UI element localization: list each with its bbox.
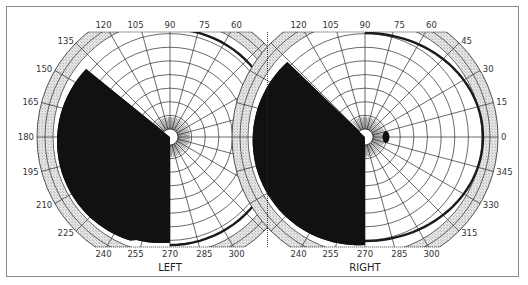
angle-label-285: 285 [391, 249, 407, 259]
angle-label-240: 240 [290, 249, 306, 259]
angle-label-330: 330 [483, 200, 499, 210]
angle-label-345: 345 [496, 167, 512, 177]
angle-label-15: 15 [496, 97, 507, 107]
angle-label-150: 150 [36, 64, 52, 74]
angle-label-0: 0 [501, 132, 506, 142]
visual-field-chart: 1201059075601351501651801952102252402552… [0, 0, 528, 285]
angle-label-90: 90 [360, 20, 371, 30]
angle-label-105: 105 [127, 20, 143, 30]
angle-label-75: 75 [199, 20, 210, 30]
angle-label-90: 90 [165, 20, 176, 30]
angle-label-300: 300 [228, 249, 244, 259]
angle-label-300: 300 [423, 249, 439, 259]
angle-label-120: 120 [290, 20, 306, 30]
angle-label-60: 60 [426, 20, 437, 30]
angle-label-105: 105 [322, 20, 338, 30]
angle-label-255: 255 [127, 249, 143, 259]
angle-label-60: 60 [231, 20, 242, 30]
angle-label-270: 270 [162, 249, 178, 259]
right-eye-field: 1201059075604530150345330315240255270285… [232, 4, 513, 270]
angle-label-240: 240 [95, 249, 111, 259]
angle-label-270: 270 [357, 249, 373, 259]
left-eye-label: LEFT [158, 262, 182, 273]
angle-label-195: 195 [22, 167, 38, 177]
angle-label-45: 45 [461, 36, 472, 46]
angle-label-30: 30 [483, 64, 494, 74]
blind-spot [383, 131, 390, 143]
angle-label-120: 120 [95, 20, 111, 30]
angle-label-210: 210 [36, 200, 52, 210]
angle-label-165: 165 [22, 97, 38, 107]
angle-label-255: 255 [322, 249, 338, 259]
angle-label-225: 225 [58, 228, 74, 238]
right-eye-label: RIGHT [349, 262, 381, 273]
angle-label-75: 75 [394, 20, 405, 30]
angle-label-285: 285 [196, 249, 212, 259]
angle-label-315: 315 [461, 228, 477, 238]
angle-label-180: 180 [18, 132, 34, 142]
angle-label-135: 135 [58, 36, 74, 46]
